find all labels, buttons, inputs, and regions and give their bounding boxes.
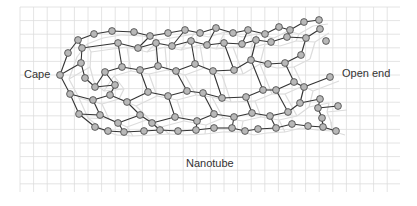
carbon-atom <box>242 128 249 135</box>
carbon-atom <box>121 129 128 136</box>
carbon-atom <box>149 120 156 127</box>
carbon-atom <box>192 61 199 68</box>
carbon-atom <box>289 121 296 128</box>
carbon-atom <box>284 34 291 41</box>
carbon-atom <box>335 103 342 110</box>
carbon-atom <box>211 125 218 132</box>
carbon-atom <box>273 125 280 132</box>
carbon-atom <box>253 37 260 44</box>
carbon-atom <box>184 88 191 95</box>
carbon-atom <box>219 95 226 102</box>
carbon-atom <box>239 41 246 48</box>
carbon-atom <box>249 110 256 117</box>
carbon-atom <box>333 128 340 135</box>
carbon-atom <box>65 50 72 57</box>
carbon-atom <box>229 125 236 132</box>
carbon-atom <box>303 35 310 42</box>
carbon-atom <box>210 68 217 75</box>
carbon-atom <box>141 128 148 135</box>
carbon-atom <box>119 64 126 71</box>
open-end-label: Open end <box>342 67 390 79</box>
carbon-atom <box>262 31 269 38</box>
carbon-atom <box>82 75 89 82</box>
cape-label: Cape <box>24 68 50 80</box>
carbon-atom <box>285 109 292 116</box>
carbon-atom <box>305 123 312 130</box>
carbon-atom <box>193 127 200 134</box>
carbon-atom <box>268 39 275 46</box>
carbon-atom <box>78 60 85 67</box>
carbon-atom <box>287 27 294 34</box>
carbon-atom <box>221 40 228 47</box>
carbon-atom <box>298 52 305 59</box>
carbon-atom <box>282 60 289 67</box>
carbon-atom <box>97 112 104 119</box>
carbon-atom <box>327 74 334 81</box>
carbon-atom <box>213 25 220 32</box>
carbon-atom <box>231 114 238 121</box>
carbon-atom <box>182 27 189 34</box>
carbon-atom <box>90 97 97 104</box>
carbon-atom <box>107 92 114 99</box>
carbon-atom <box>135 45 142 52</box>
carbon-atom <box>75 37 82 44</box>
carbon-atom <box>137 67 144 74</box>
carbon-atom <box>79 45 86 52</box>
carbon-atom <box>169 43 176 50</box>
carbon-atom <box>92 124 99 131</box>
carbon-atom <box>115 40 122 47</box>
carbon-atom <box>102 69 109 76</box>
carbon-atom <box>200 90 207 97</box>
carbon-atom <box>265 61 272 68</box>
carbon-atom <box>157 127 164 134</box>
carbon-atom <box>317 26 324 33</box>
carbon-atom <box>92 84 99 91</box>
carbon-atom <box>175 128 182 135</box>
carbon-atom <box>165 93 172 100</box>
carbon-atom <box>91 31 98 38</box>
carbon-atom <box>131 29 138 36</box>
carbon-atom <box>57 72 64 79</box>
carbon-atom <box>211 111 218 118</box>
carbon-atom <box>105 128 112 135</box>
carbon-atom <box>273 87 280 94</box>
carbon-atom <box>230 30 237 37</box>
carbon-atom <box>147 33 154 40</box>
carbon-atom <box>145 89 152 96</box>
carbon-atom <box>243 94 250 101</box>
carbon-atom <box>124 99 131 106</box>
carbon-atom <box>301 19 308 26</box>
carbon-atom <box>165 30 172 37</box>
carbon-atom <box>76 111 83 118</box>
carbon-atom <box>188 38 195 45</box>
nanotube-label: Nanotube <box>186 157 234 169</box>
carbon-atom <box>204 42 211 49</box>
carbon-atom <box>316 17 323 24</box>
carbon-atom <box>323 38 330 45</box>
nanotube-diagram <box>0 0 417 206</box>
carbon-atom <box>109 28 116 35</box>
carbon-atom <box>115 120 122 127</box>
carbon-atom <box>276 24 283 31</box>
carbon-atom <box>291 79 298 86</box>
carbon-atom <box>197 30 204 37</box>
carbon-atom <box>172 114 179 121</box>
carbon-atom <box>315 105 322 112</box>
carbon-atom <box>245 27 252 34</box>
carbon-atom <box>67 91 74 98</box>
carbon-atom <box>260 87 267 94</box>
carbon-atom <box>267 113 274 120</box>
carbon-atom <box>320 124 327 131</box>
carbon-atom <box>194 118 201 125</box>
carbon-atom <box>112 82 119 89</box>
carbon-atom <box>155 63 162 70</box>
carbon-atom <box>297 100 304 107</box>
carbon-atom <box>137 112 144 119</box>
carbon-atom <box>301 84 308 91</box>
carbon-atom <box>153 40 160 47</box>
carbon-atom <box>319 115 326 122</box>
carbon-atom <box>255 126 262 133</box>
carbon-atom <box>317 96 324 103</box>
carbon-atom <box>248 57 255 64</box>
carbon-atom <box>173 68 180 75</box>
